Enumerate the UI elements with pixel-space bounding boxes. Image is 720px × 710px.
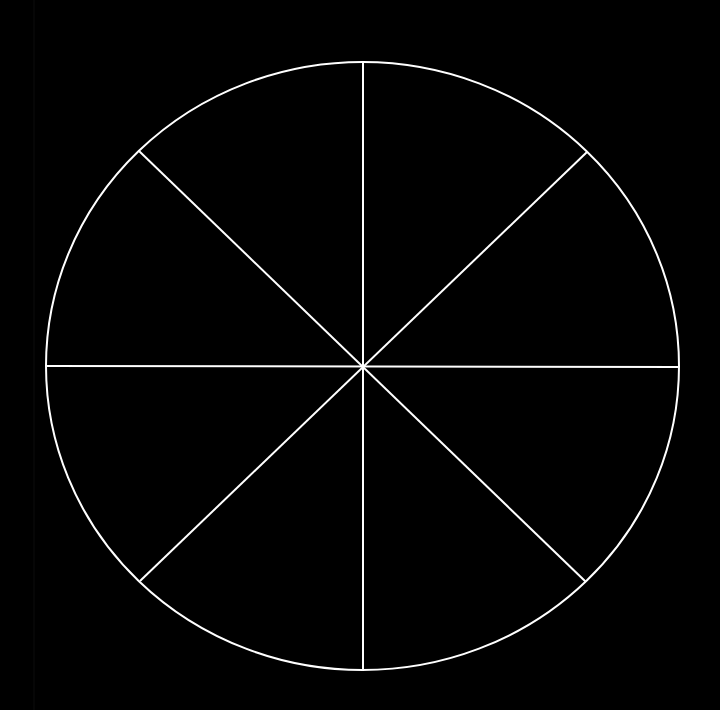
diagram-canvas	[0, 0, 720, 710]
divided-circle-diagram	[0, 0, 720, 710]
